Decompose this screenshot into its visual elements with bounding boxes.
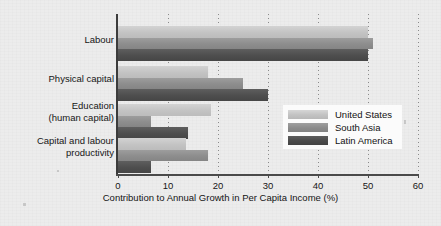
- tick-10: [168, 174, 169, 178]
- legend-label-south-asia: South Asia: [335, 122, 380, 133]
- legend-swatch-latin-america: [288, 136, 328, 145]
- legend-swatch-united-states: [288, 110, 328, 119]
- category-label-labour: Labour: [2, 34, 114, 46]
- tick-40: [318, 174, 319, 178]
- bar-capital-and-labour-productivity-south-asia: [118, 150, 208, 162]
- bar-physical-capital-united-states: [118, 66, 208, 78]
- x-axis-line: [116, 174, 418, 176]
- tick-label-60: 60: [403, 180, 433, 191]
- bar-education-human-capital-south-asia: [118, 116, 151, 128]
- x-axis-title: Contribution to Annual Growth in Per Cap…: [0, 192, 441, 203]
- plot-area: 0102030405060: [118, 14, 418, 174]
- tick-label-40: 40: [303, 180, 333, 191]
- tick-label-20: 20: [203, 180, 233, 191]
- bar-physical-capital-south-asia: [118, 78, 243, 90]
- tick-label-50: 50: [353, 180, 383, 191]
- bar-chart-figure: Labour Physical capital Education (human…: [0, 0, 441, 226]
- gridline-60: [418, 14, 419, 174]
- tick-label-0: 0: [103, 180, 133, 191]
- bar-education-human-capital-latin-america: [118, 127, 188, 139]
- bar-labour-united-states: [118, 26, 368, 38]
- tick-0: [118, 174, 119, 178]
- category-label-education: Education (human capital): [2, 100, 114, 123]
- tick-30: [268, 174, 269, 178]
- legend-item-united-states: United States: [288, 108, 398, 120]
- bar-labour-latin-america: [118, 49, 368, 61]
- tick-50: [368, 174, 369, 178]
- bar-physical-capital-latin-america: [118, 89, 268, 101]
- legend-item-latin-america: Latin America: [288, 134, 398, 146]
- legend-label-latin-america: Latin America: [335, 135, 393, 146]
- category-label-productivity: Capital and labour productivity: [2, 135, 114, 158]
- legend-item-south-asia: South Asia: [288, 121, 398, 133]
- legend-swatch-south-asia: [288, 123, 328, 132]
- tick-label-30: 30: [253, 180, 283, 191]
- tick-60: [418, 174, 419, 178]
- category-label-physical-capital: Physical capital: [2, 73, 114, 85]
- bar-capital-and-labour-productivity-latin-america: [118, 161, 151, 173]
- tick-20: [218, 174, 219, 178]
- bar-labour-south-asia: [118, 38, 373, 50]
- legend: United States South Asia Latin America: [283, 105, 402, 149]
- legend-label-united-states: United States: [335, 109, 392, 120]
- tick-label-10: 10: [153, 180, 183, 191]
- bar-education-human-capital-united-states: [118, 104, 211, 116]
- bar-capital-and-labour-productivity-united-states: [118, 138, 186, 150]
